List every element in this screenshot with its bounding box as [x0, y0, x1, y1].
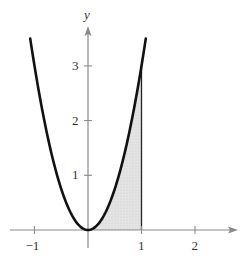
function-plot: [0, 0, 243, 261]
x-tick-label: −1: [26, 239, 40, 252]
y-tick-label: 1: [72, 168, 79, 181]
y-tick-label: 2: [72, 114, 79, 127]
x-tick-label: 2: [192, 239, 199, 252]
y-tick-label: 3: [72, 59, 79, 72]
x-tick-label: 1: [138, 239, 145, 252]
y-axis-label: y: [84, 8, 90, 21]
shaded-area: [88, 66, 142, 230]
